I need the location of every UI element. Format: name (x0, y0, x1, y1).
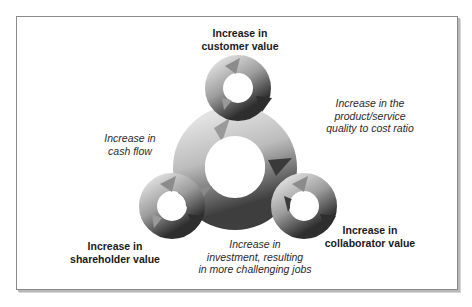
collaborator-line-1: Increase in (320, 224, 420, 237)
customer-value-label: Increase in customer value (190, 27, 290, 52)
investment-line-2: investment, resulting (190, 251, 320, 264)
investment-label: Increase in investment, resulting in mor… (190, 238, 320, 276)
quality-line-2: product/service (310, 110, 430, 123)
shareholder-line-1: Increase in (65, 240, 165, 253)
customer-cycle-icon (214, 58, 272, 112)
customer-value-line-2: customer value (190, 40, 290, 53)
quality-cost-ratio-label: Increase in the product/service quality … (310, 97, 430, 135)
cash-flow-line-1: Increase in (95, 132, 165, 145)
shareholder-line-2: shareholder value (65, 253, 165, 266)
investment-line-1: Increase in (190, 238, 320, 251)
quality-line-1: Increase in the (310, 97, 430, 110)
collaborator-cycle-icon (280, 176, 336, 230)
shareholder-cycle-icon (148, 176, 204, 230)
customer-value-line-1: Increase in (190, 27, 290, 40)
investment-line-3: in more challenging jobs (190, 263, 320, 276)
cash-flow-line-2: cash flow (95, 145, 165, 158)
cash-flow-label: Increase in cash flow (95, 132, 165, 157)
quality-line-3: quality to cost ratio (310, 122, 430, 135)
collaborator-line-2: collaborator value (320, 237, 420, 250)
shareholder-value-label: Increase in shareholder value (65, 240, 165, 265)
collaborator-value-label: Increase in collaborator value (320, 224, 420, 249)
